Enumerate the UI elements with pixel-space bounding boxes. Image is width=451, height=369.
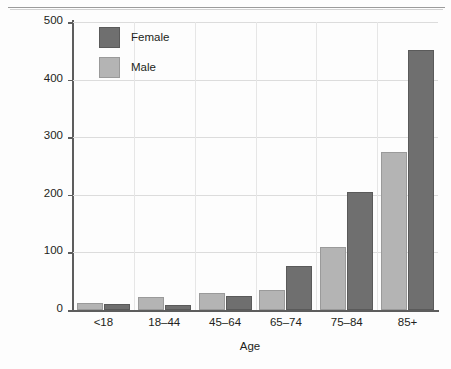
y-tick-label-200: 200 [23,187,63,199]
legend-item-female: Female [99,24,209,50]
legend-swatch-female [99,27,120,48]
y-tick-mark-0 [68,310,73,312]
x-axis-title: Age [60,340,440,352]
bar-male-4564 [199,293,225,310]
bar-female-7584 [347,192,373,310]
legend-label-male: Male [131,61,156,73]
x-tick-label-2: 45–64 [195,316,256,328]
bar-male-1844 [138,297,164,310]
bar-female-1844 [165,305,191,310]
bar-female-85 [408,50,434,310]
x-tick-label-3: 65–74 [256,316,317,328]
gridline-x-5 [377,22,378,310]
y-tick-label-100: 100 [23,244,63,256]
bar-male-85 [381,152,407,310]
x-tick-label-4: 75–84 [316,316,377,328]
gridline-x-4 [316,22,317,310]
y-tick-mark-400 [68,80,73,82]
y-tick-mark-100 [68,252,73,254]
x-tick-label-0: <18 [73,316,134,328]
gridline-x-3 [256,22,257,310]
y-tick-mark-500 [68,22,73,24]
chart-legend: FemaleMale [99,24,209,84]
figure-bar-chart-fractures-by-age: Fractures diagnosed per 10,000 people in… [0,0,451,369]
y-tick-mark-300 [68,137,73,139]
y-tick-label-400: 400 [23,72,63,84]
x-tick-label-5: 85+ [377,316,438,328]
y-tick-mark-200 [68,195,73,197]
bar-male-7584 [320,247,346,310]
legend-label-female: Female [131,31,169,43]
legend-item-male: Male [99,54,209,80]
bar-female-18 [104,304,130,310]
bar-female-4564 [226,296,252,310]
x-axis-line [72,310,439,312]
y-tick-label-0: 0 [23,302,63,314]
bar-female-6574 [286,266,312,310]
y-tick-label-500: 500 [23,14,63,26]
page-rule-top [8,7,445,8]
page-rule-top-shadow [10,9,443,10]
legend-swatch-male [99,57,120,78]
bar-male-6574 [259,290,285,310]
bar-male-18 [77,303,103,310]
y-tick-label-300: 300 [23,129,63,141]
x-tick-label-1: 18–44 [134,316,195,328]
